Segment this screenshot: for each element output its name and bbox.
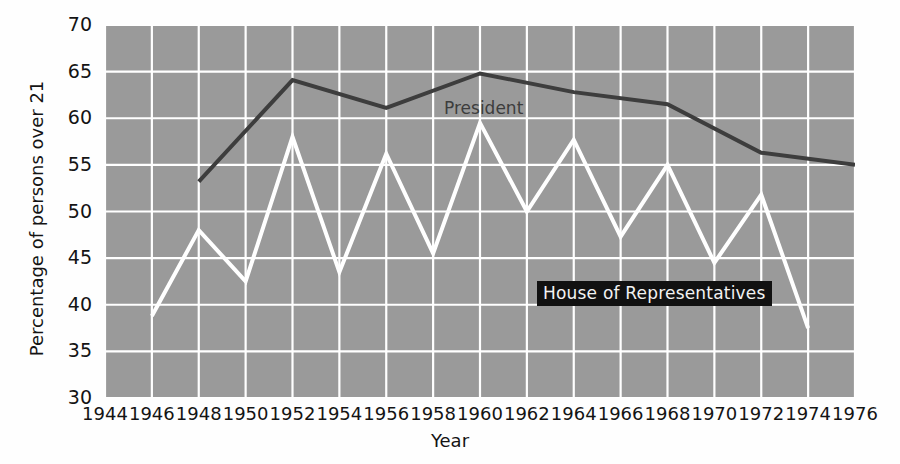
series-label-house-of-representatives: House of Representatives bbox=[537, 281, 772, 306]
x-axis-tick-1954: 1954 bbox=[316, 404, 362, 424]
x-axis-tick-1970: 1970 bbox=[691, 404, 737, 424]
x-axis-tick-1962: 1962 bbox=[504, 404, 550, 424]
x-axis-tick-1944: 1944 bbox=[82, 404, 128, 424]
x-axis-tick-1976: 1976 bbox=[832, 404, 878, 424]
x-axis-tick-1950: 1950 bbox=[223, 404, 269, 424]
x-axis-label: Year bbox=[0, 430, 900, 451]
x-axis-tick-1956: 1956 bbox=[363, 404, 409, 424]
y-axis-tick-50: 50 bbox=[22, 202, 92, 221]
y-axis-tick-35: 35 bbox=[22, 341, 92, 360]
x-axis-tick-1968: 1968 bbox=[645, 404, 691, 424]
x-axis-tick-1960: 1960 bbox=[457, 404, 503, 424]
series-label-president: President bbox=[444, 98, 523, 118]
series-line-president bbox=[199, 73, 855, 181]
x-axis-tick-1964: 1964 bbox=[551, 404, 597, 424]
plot-area: President House of Representatives bbox=[105, 25, 855, 398]
x-axis-tick-1952: 1952 bbox=[270, 404, 316, 424]
x-axis-tick-1974: 1974 bbox=[785, 404, 831, 424]
x-axis-tick-1972: 1972 bbox=[738, 404, 784, 424]
y-axis-tick-70: 70 bbox=[22, 15, 92, 34]
x-axis-tick-1948: 1948 bbox=[176, 404, 222, 424]
y-axis-tick-45: 45 bbox=[22, 248, 92, 267]
x-axis-tick-1958: 1958 bbox=[410, 404, 456, 424]
chart-figure: Percentage of persons over 21 3035404550… bbox=[0, 0, 900, 464]
y-axis-tick-40: 40 bbox=[22, 295, 92, 314]
y-axis-tick-65: 65 bbox=[22, 62, 92, 81]
x-axis-tick-1966: 1966 bbox=[598, 404, 644, 424]
x-axis-tick-1946: 1946 bbox=[129, 404, 175, 424]
y-axis-tick-60: 60 bbox=[22, 108, 92, 127]
data-series-lines bbox=[105, 25, 855, 398]
y-axis-tick-55: 55 bbox=[22, 155, 92, 174]
